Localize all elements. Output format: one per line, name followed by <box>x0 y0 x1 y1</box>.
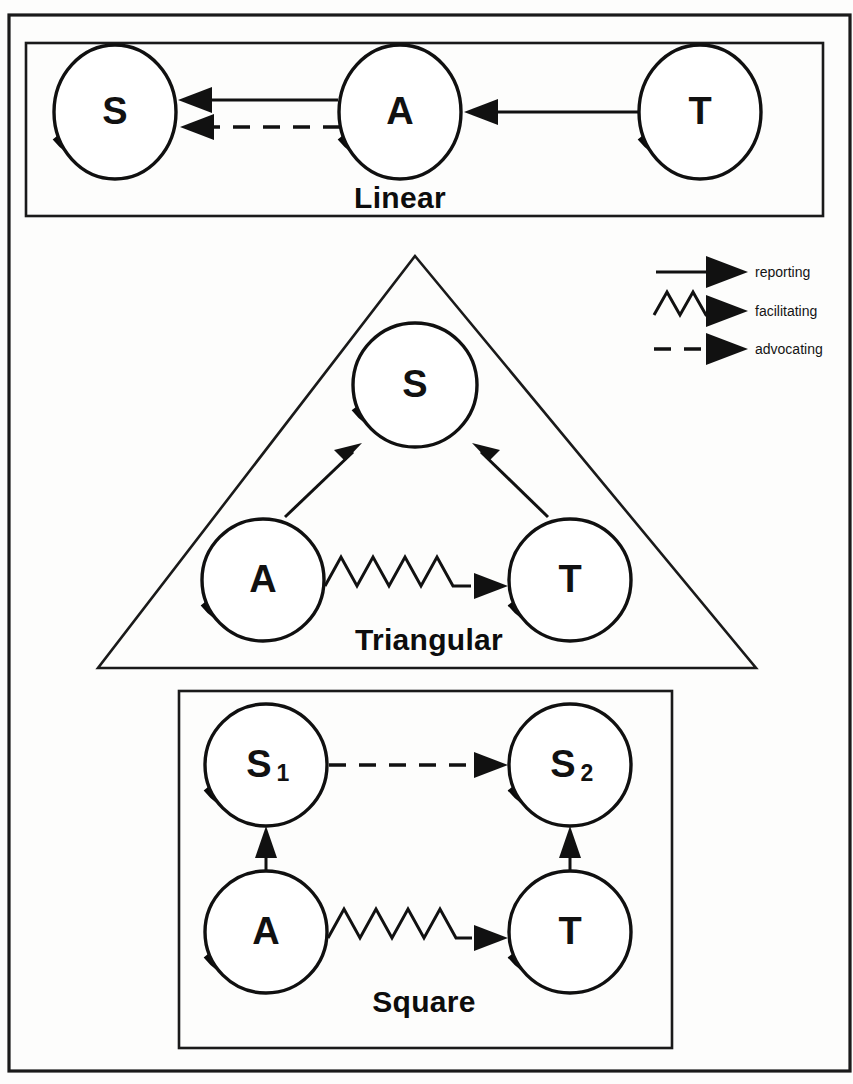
panel-linear: S A T Linear <box>26 43 823 216</box>
arrowhead-icon <box>706 295 748 327</box>
arrowhead-icon <box>474 925 508 951</box>
panel-caption-triangular: Triangular <box>355 623 503 656</box>
node-tri-s[interactable]: S <box>353 323 477 447</box>
edge-sq-a-to-t-facilitating <box>328 909 508 951</box>
node-label: T <box>558 910 581 952</box>
node-tri-t[interactable]: T <box>509 519 631 641</box>
legend-item-facilitating: facilitating <box>654 292 817 327</box>
edge-sq-a-to-s1-reporting <box>255 826 277 870</box>
panel-caption-square: Square <box>372 985 476 1018</box>
triangular-panel-border <box>98 256 756 668</box>
edge-sq-s1-to-s2-advocating <box>329 752 508 778</box>
node-sq-s2[interactable]: S 2 <box>509 704 631 826</box>
legend-label-reporting: reporting <box>755 264 810 280</box>
legend: reporting facilitating advocating <box>654 256 823 365</box>
arrowhead-icon <box>474 752 508 778</box>
edge-tri-a-to-t-facilitating <box>325 557 508 599</box>
node-label: T <box>688 90 711 132</box>
edge-tri-a-to-s-reporting <box>285 443 362 517</box>
node-label: T <box>558 558 581 600</box>
legend-item-advocating: advocating <box>654 333 823 365</box>
edge-sq-t-to-s2-reporting <box>559 826 581 870</box>
edge-linear-a-to-s-reporting <box>178 87 338 113</box>
node-tri-a[interactable]: A <box>202 519 324 641</box>
edge-tri-t-to-s-reporting <box>472 443 548 517</box>
node-label: A <box>249 558 276 600</box>
edge-linear-a-to-s-advocating <box>180 114 340 140</box>
arrowhead-icon <box>180 114 214 140</box>
node-label: A <box>252 910 279 952</box>
panel-triangular: S A T Triangular <box>98 256 756 668</box>
legend-label-advocating: advocating <box>755 341 823 357</box>
panel-caption-linear: Linear <box>354 181 446 214</box>
diagram-canvas: S A T Linear <box>0 0 853 1084</box>
node-label: S <box>102 90 127 132</box>
node-linear-t[interactable]: T <box>639 45 761 179</box>
legend-item-reporting: reporting <box>656 256 810 288</box>
arrowhead-icon <box>464 99 498 125</box>
node-label: S <box>402 363 427 405</box>
arrowhead-icon <box>255 826 277 858</box>
arrowhead-icon <box>178 87 212 113</box>
node-label: A <box>386 90 413 132</box>
arrowhead-icon <box>706 256 748 288</box>
panel-square: S 1 S 2 A T Square <box>179 691 672 1048</box>
node-linear-s[interactable]: S <box>54 45 176 179</box>
node-linear-a[interactable]: A <box>339 45 461 179</box>
node-label-subscript: 1 <box>277 760 290 786</box>
edge-linear-t-to-a-reporting <box>464 99 638 125</box>
arrowhead-icon <box>474 573 508 599</box>
node-label: S <box>246 743 271 785</box>
legend-label-facilitating: facilitating <box>755 303 817 319</box>
arrowhead-icon <box>706 333 748 365</box>
node-sq-s1[interactable]: S 1 <box>205 704 327 826</box>
node-label-subscript: 2 <box>581 760 594 786</box>
node-sq-a[interactable]: A <box>205 871 327 993</box>
arrowhead-icon <box>559 826 581 858</box>
node-label: S <box>550 743 575 785</box>
node-sq-t[interactable]: T <box>509 871 631 993</box>
